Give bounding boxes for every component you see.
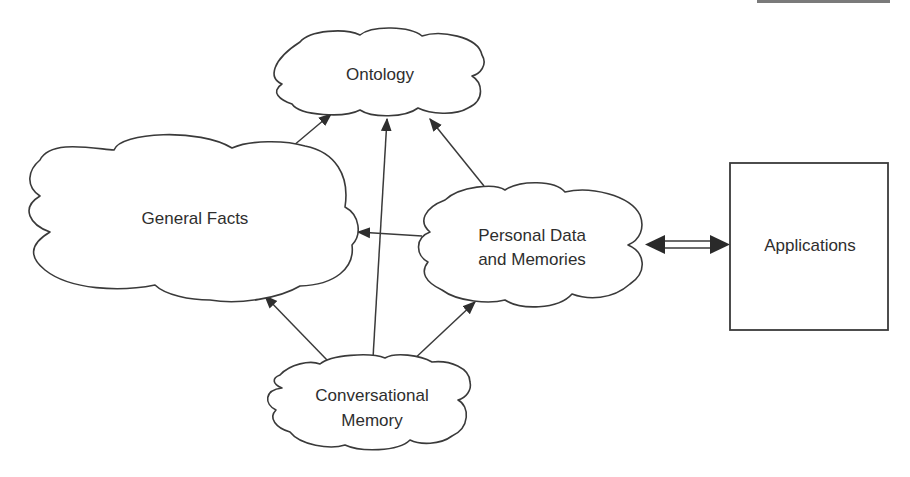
arrowhead-right-icon — [710, 235, 730, 254]
label-conversational-memory-line1: Conversational — [315, 386, 428, 405]
arrowhead-left-icon — [645, 235, 665, 254]
edge-general-facts-to-ontology — [293, 114, 331, 146]
top-border-fragment — [757, 0, 890, 3]
node-general-facts[interactable]: General Facts — [29, 135, 358, 302]
edge-personal-data-to-ontology — [430, 119, 484, 186]
label-conversational-memory-line2: Memory — [341, 411, 403, 430]
node-applications[interactable]: Applications — [730, 163, 888, 330]
label-personal-data-line2: and Memories — [478, 250, 586, 269]
edge-personal-data-to-general-facts — [358, 232, 422, 236]
label-applications: Applications — [764, 236, 856, 255]
label-ontology: Ontology — [346, 65, 415, 84]
knowledge-architecture-diagram: Ontology General Facts Personal Data and… — [0, 0, 910, 477]
edge-conversational-memory-to-ontology — [373, 119, 387, 358]
node-conversational-memory[interactable]: Conversational Memory — [268, 355, 471, 450]
label-personal-data-line1: Personal Data — [478, 226, 586, 245]
node-ontology[interactable]: Ontology — [274, 28, 484, 116]
edge-conversational-memory-to-general-facts — [265, 296, 327, 360]
label-general-facts: General Facts — [142, 209, 249, 228]
node-personal-data[interactable]: Personal Data and Memories — [419, 183, 643, 307]
double-arrow-personal-data-applications — [645, 235, 730, 254]
edge-conversational-memory-to-personal-data — [411, 302, 475, 362]
